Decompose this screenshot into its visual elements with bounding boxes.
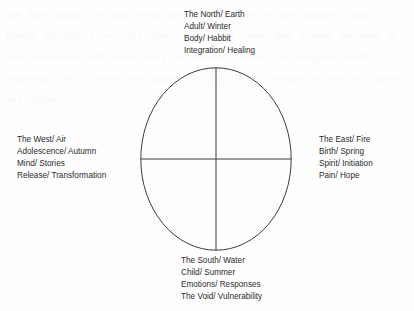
quadrant-label-west: The West/ Air Adolescence/ Autumn Mind/ … [17,134,106,182]
east-line-3: Spirit/ Initiation [319,158,373,170]
south-line-4: The Void/ Vulnerability [181,291,262,303]
south-line-3: Emotions/ Responses [181,279,262,291]
east-line-2: Birth/ Spring [319,146,373,158]
north-line-4: Integration/ Healing [184,45,255,57]
medicine-wheel-circle [140,67,292,251]
west-line-3: Mind/ Stories [17,158,106,170]
west-line-4: Release/ Transformation [17,170,106,182]
west-line-1: The West/ Air [17,134,106,146]
quadrant-label-north: The North/ Earth Adult/ Winter Body/ Hab… [184,9,255,57]
south-line-1: The South/ Water [181,255,262,267]
north-line-1: The North/ Earth [184,9,255,21]
quadrant-label-south: The South/ Water Child/ Summer Emotions/… [181,255,262,303]
south-line-2: Child/ Summer [181,267,262,279]
quadrant-label-east: The East/ Fire Birth/ Spring Spirit/ Ini… [319,134,373,182]
east-line-4: Pain/ Hope [319,170,373,182]
north-line-3: Body/ Habbit [184,33,255,45]
diagram-page: the faint ghost of text from the reverse… [0,0,414,311]
west-line-2: Adolescence/ Autumn [17,146,106,158]
east-line-1: The East/ Fire [319,134,373,146]
north-line-2: Adult/ Winter [184,21,255,33]
